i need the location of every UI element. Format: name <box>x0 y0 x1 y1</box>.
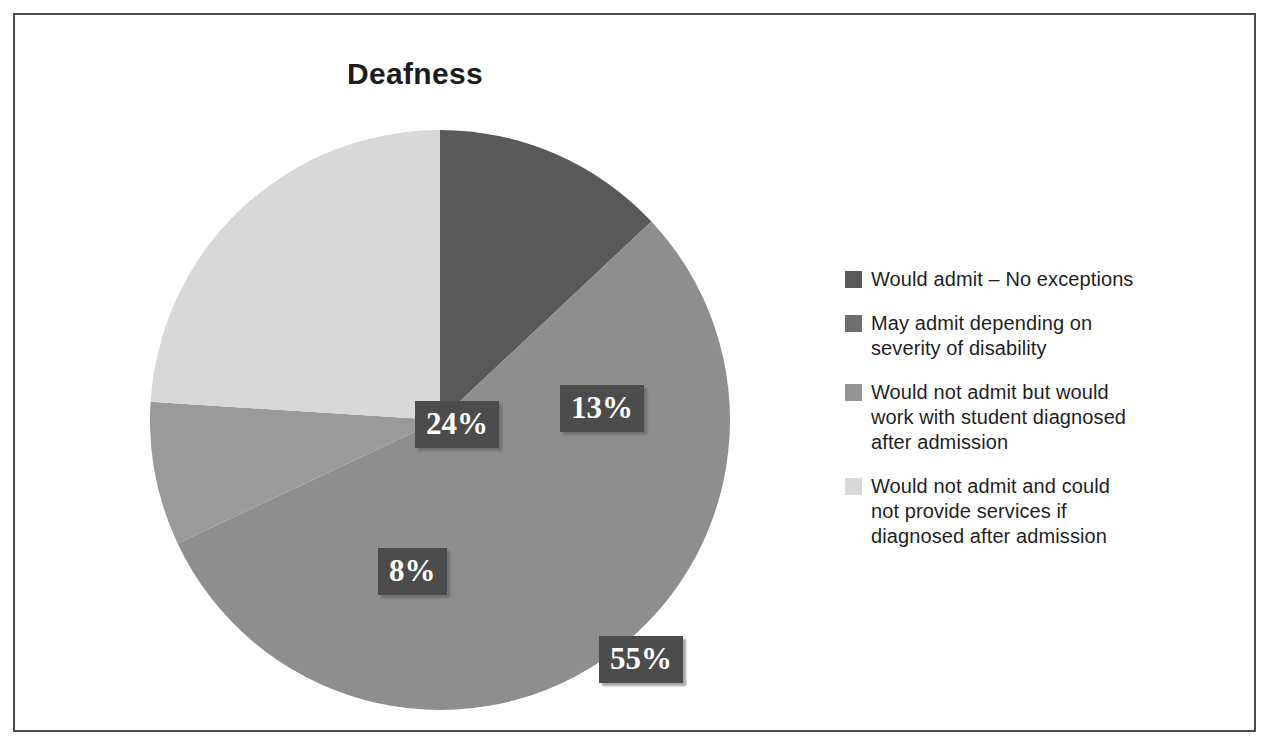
chart-legend: Would admit – No exceptions May admit de… <box>845 267 1255 568</box>
pie-slice-label-2: 8% <box>378 548 447 595</box>
legend-swatch-icon-3 <box>845 478 862 495</box>
legend-item-3: Would not admit and could not provide se… <box>845 474 1255 549</box>
legend-item-2: Would not admit but would work with stud… <box>845 380 1255 455</box>
legend-item-1: May admit depending on severity of disab… <box>845 311 1255 361</box>
legend-swatch-icon-0 <box>845 271 862 288</box>
pie-slice-label-1: 55% <box>599 636 683 683</box>
legend-label-1: May admit depending on severity of disab… <box>871 311 1092 361</box>
pie-chart: 13% 55% 8% 24% <box>150 127 736 717</box>
legend-label-3: Would not admit and could not provide se… <box>871 474 1110 549</box>
pie-slice-label-0: 13% <box>560 385 644 432</box>
chart-title: Deafness <box>15 57 815 91</box>
pie-slice-label-3: 24% <box>415 401 499 448</box>
legend-label-0: Would admit – No exceptions <box>871 267 1133 292</box>
legend-item-0: Would admit – No exceptions <box>845 267 1255 292</box>
figure-border: Deafness 13% 55% 8% 24% Would admit – No… <box>13 13 1256 732</box>
legend-swatch-icon-2 <box>845 384 862 401</box>
legend-label-2: Would not admit but would work with stud… <box>871 380 1126 455</box>
pie-slice-3 <box>151 130 440 420</box>
legend-swatch-icon-1 <box>845 315 862 332</box>
